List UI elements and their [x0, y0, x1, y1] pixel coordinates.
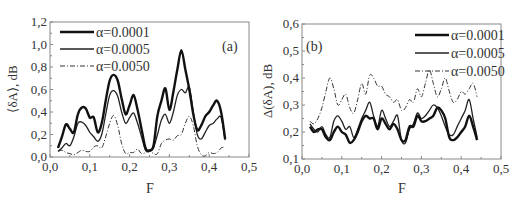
x-tick-label: 0,2 — [373, 161, 389, 176]
panel-label-b: (b) — [306, 39, 323, 55]
legend-label: α=0.0050 — [451, 64, 505, 79]
panel-label-a: (a) — [222, 39, 238, 55]
y-tick-label: 1,0 — [31, 37, 47, 52]
y-tick-label: 0,0 — [31, 149, 47, 164]
y-tick-label: 0,1 — [283, 151, 299, 166]
series-line — [310, 99, 477, 143]
legend-label: α=0.0005 — [96, 42, 150, 57]
y-tick-label: 0,3 — [283, 97, 299, 112]
legend-label: α=0.0001 — [96, 25, 150, 40]
x-tick-label: 0,1 — [334, 161, 350, 176]
y-tick-label: 0,2 — [31, 127, 47, 142]
series-line — [58, 87, 225, 152]
y-tick-label: 0,6 — [283, 16, 300, 31]
y-tick-label: 0,4 — [31, 104, 48, 119]
y-axis-label-b: Δ(δA), dB — [260, 64, 275, 119]
x-tick-label: 0,5 — [493, 161, 509, 176]
legend-label: α=0.0050 — [96, 59, 150, 74]
y-tick-label: 0,4 — [283, 70, 300, 85]
y-tick-label: 0,2 — [283, 124, 299, 139]
series-line — [310, 107, 477, 143]
x-tick-label: 0,5 — [241, 159, 257, 174]
legend-b: α=0.0001α=0.0005α=0.0050 — [415, 28, 505, 79]
x-tick-label: 0,3 — [161, 159, 177, 174]
y-tick-label: 0,5 — [283, 43, 299, 58]
chart-panel-b: 0,00,10,20,30,40,5 0,10,20,30,40,50,6 α=… — [260, 16, 509, 196]
legend-a: α=0.0001α=0.0005α=0.0050 — [60, 25, 150, 74]
y-axis-label-a: ⟨δA⟩, dB — [5, 65, 20, 113]
series-lines-b — [310, 70, 477, 144]
x-axis-label-a: F — [146, 181, 154, 196]
figure: 0,00,10,20,30,40,5 0,00,20,40,60,81,01,2… — [0, 0, 519, 203]
x-axis-label-b: F — [398, 181, 406, 196]
x-tick-label: 0,3 — [413, 161, 429, 176]
legend-label: α=0.0005 — [451, 46, 505, 61]
x-tick-label: 0,4 — [453, 161, 470, 176]
legend-label: α=0.0001 — [451, 28, 505, 43]
x-tick-label: 0,1 — [82, 159, 98, 174]
y-tick-label: 0,8 — [31, 59, 47, 74]
y-tick-label: 1,2 — [31, 14, 47, 29]
x-tick-label: 0,4 — [201, 159, 218, 174]
y-tick-label: 0,6 — [31, 82, 48, 97]
x-tick-label: 0,2 — [121, 159, 137, 174]
chart-panel-a: 0,00,10,20,30,40,5 0,00,20,40,60,81,01,2… — [5, 14, 257, 196]
